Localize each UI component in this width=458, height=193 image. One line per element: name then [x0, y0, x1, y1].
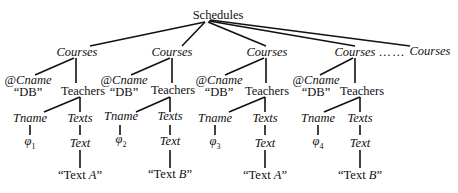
teachers-node: Teachers [340, 85, 384, 98]
texts-node: Texts [347, 112, 372, 125]
teachers-node: Teachers [245, 85, 289, 98]
text-node: Text [255, 137, 275, 150]
cname-value: “DB” [110, 86, 138, 99]
cname-value: “DB” [302, 86, 330, 99]
root-node: Schedules [193, 9, 244, 22]
teachers-node: Teachers [61, 85, 105, 98]
cname-value: “DB” [14, 86, 42, 99]
text-value: “Text A” [58, 169, 102, 182]
texts-node: Texts [157, 110, 182, 123]
text-value: “Text B” [338, 169, 382, 182]
courses-node-last: Courses [410, 45, 451, 58]
text-node: Text [160, 135, 180, 148]
ellipsis: …… [379, 46, 406, 59]
phi-value: φ3 [210, 135, 221, 151]
text-node: Text [70, 137, 90, 150]
tname-node: Tname [104, 110, 138, 123]
texts-node: Texts [67, 112, 92, 125]
tname-node: Tname [198, 112, 232, 125]
text-node: Text [350, 137, 370, 150]
cname-value: “DB” [205, 86, 233, 99]
texts-node: Texts [252, 112, 277, 125]
phi-value: φ4 [313, 135, 324, 151]
text-value: “Text A” [243, 169, 287, 182]
courses-node: Courses [335, 46, 376, 59]
courses-node: Courses [57, 46, 98, 59]
courses-node: Courses [247, 46, 288, 59]
tname-node: Tname [301, 112, 335, 125]
courses-node: Courses [152, 46, 193, 59]
phi-value: φ1 [25, 135, 36, 151]
phi-value: φ2 [116, 133, 127, 149]
tname-node: Tname [13, 112, 47, 125]
text-value: “Text B” [148, 168, 192, 181]
teachers-node: Teachers [151, 84, 195, 97]
